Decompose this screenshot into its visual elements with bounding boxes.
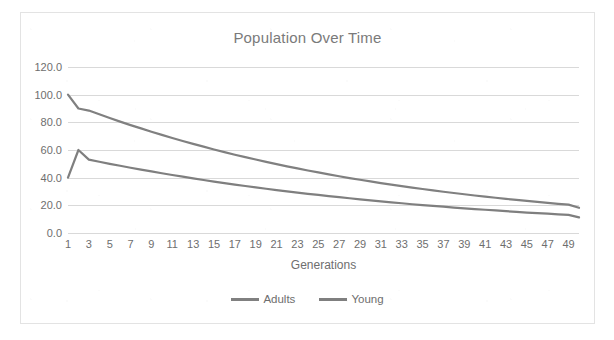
x-axis-tick-label: 1 — [65, 238, 71, 250]
x-axis-tick-label: 25 — [312, 238, 324, 250]
x-axis-tick-label: 35 — [416, 238, 428, 250]
x-axis-tick-label: 39 — [458, 238, 470, 250]
legend-swatch-adults — [231, 298, 259, 301]
y-axis-tick-label: 120.0 — [34, 61, 62, 73]
y-axis-tick-label: 60.0 — [41, 144, 62, 156]
series-lines — [68, 67, 579, 233]
y-axis-tick-label: 100.0 — [34, 89, 62, 101]
x-axis-tick-label: 47 — [542, 238, 554, 250]
x-axis-tick-label: 17 — [229, 238, 241, 250]
x-axis-tick-label: 23 — [291, 238, 303, 250]
x-axis-tick-label: 37 — [437, 238, 449, 250]
x-axis-title: Generations — [68, 258, 579, 272]
series-line-young — [68, 150, 579, 217]
y-axis-tick-label: 80.0 — [41, 116, 62, 128]
legend-swatch-young — [319, 298, 347, 301]
y-axis-tick-label: 40.0 — [41, 172, 62, 184]
x-axis-tick-label: 49 — [562, 238, 574, 250]
x-axis-tick-label: 27 — [333, 238, 345, 250]
x-axis-tick-label: 3 — [86, 238, 92, 250]
x-axis-tick-label: 11 — [167, 238, 178, 250]
legend-label: Adults — [263, 293, 295, 305]
x-axis-tick-label: 45 — [521, 238, 533, 250]
x-axis-tick-label: 19 — [250, 238, 262, 250]
x-axis-tick-label: 13 — [187, 238, 199, 250]
gridline — [68, 233, 579, 234]
series-line-adults — [68, 95, 579, 208]
x-axis-tick-label: 29 — [354, 238, 366, 250]
x-axis-tick-label: 31 — [375, 238, 387, 250]
x-axis-tick-label: 21 — [270, 238, 282, 250]
y-axis-tick-label: 20.0 — [41, 199, 62, 211]
x-axis-tick-label: 5 — [107, 238, 113, 250]
x-axis-tick-label: 33 — [396, 238, 408, 250]
plot-area — [68, 67, 579, 233]
x-axis-tick-label: 43 — [500, 238, 512, 250]
x-axis-tick-label: 15 — [208, 238, 220, 250]
y-axis-tick-label: 0.0 — [47, 227, 62, 239]
y-axis-tick-labels: 0.020.040.060.080.0100.0120.0 — [21, 67, 62, 233]
chart-legend: AdultsYoung — [21, 293, 594, 305]
chart-title: Population Over Time — [21, 29, 594, 46]
legend-item-adults[interactable]: Adults — [231, 293, 295, 305]
x-axis-tick-label: 41 — [479, 238, 491, 250]
x-axis-tick-label: 7 — [128, 238, 134, 250]
legend-item-young[interactable]: Young — [319, 293, 383, 305]
chart-container: Population Over Time 0.020.040.060.080.0… — [20, 12, 595, 324]
x-axis-tick-label: 9 — [148, 238, 154, 250]
legend-label: Young — [351, 293, 383, 305]
x-axis-tick-labels: 1357911131517192123252729313335373941434… — [68, 238, 579, 254]
